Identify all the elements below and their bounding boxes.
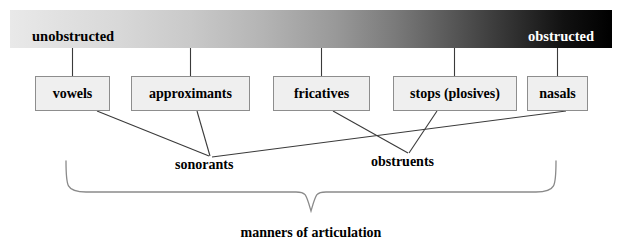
category-label-approximants: approximants	[149, 87, 232, 101]
line-stops-to-obstruents	[409, 111, 437, 153]
diagram-title: manners of articulation	[0, 226, 622, 240]
obstruction-continuum-bar: unobstructed obstructed	[10, 10, 612, 48]
line-fricatives-to-obstruents	[333, 111, 408, 153]
category-label-fricatives: fricatives	[294, 87, 349, 101]
category-box-vowels[interactable]: vowels	[35, 76, 110, 111]
category-label-vowels: vowels	[53, 87, 93, 101]
category-box-approximants[interactable]: approximants	[131, 76, 250, 111]
group-label-sonorants: sonorants	[175, 158, 233, 172]
category-box-fricatives[interactable]: fricatives	[273, 76, 370, 111]
line-nasals-to-sonorants	[212, 111, 566, 157]
summary-brace	[66, 161, 556, 211]
continuum-left-label: unobstructed	[32, 29, 114, 44]
continuum-tick-group	[73, 48, 558, 76]
articulation-diagram: unobstructed obstructed	[0, 0, 622, 251]
continuum-right-label: obstructed	[528, 29, 594, 44]
grouping-line-group	[97, 111, 566, 157]
category-label-stops: stops (plosives)	[410, 87, 500, 101]
category-box-nasals[interactable]: nasals	[527, 76, 588, 111]
category-box-stops[interactable]: stops (plosives)	[393, 76, 517, 111]
line-approximants-to-sonorants	[197, 111, 210, 156]
line-vowels-to-sonorants	[97, 111, 209, 156]
category-label-nasals: nasals	[539, 87, 576, 101]
group-label-obstruents: obstruents	[371, 155, 434, 169]
